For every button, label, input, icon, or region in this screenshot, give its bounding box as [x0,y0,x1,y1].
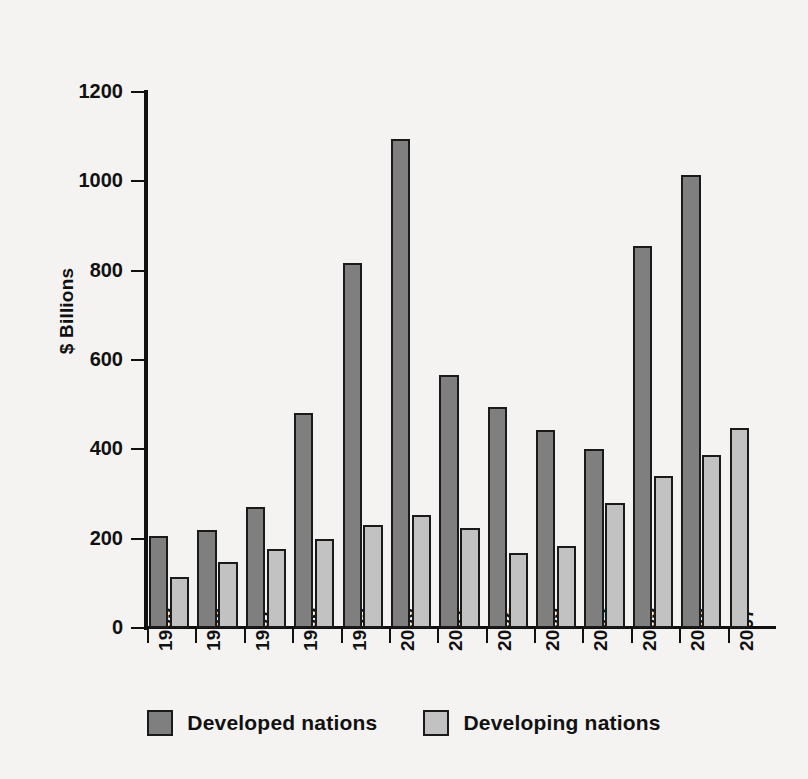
y-tick [131,627,145,629]
bar-developing-1997 [267,549,286,628]
y-tick-label: 600 [19,349,123,369]
bar-developed-2004 [584,449,603,628]
bar-developed-2002 [488,407,507,628]
x-tick [679,628,681,643]
bar-developed-1996 [197,530,216,628]
bar-developing-2004 [605,503,624,628]
legend-label: Developed nations [187,711,377,735]
y-tick-label: 400 [19,438,123,458]
bar-developed-2003 [536,430,555,628]
bar-developing-2007 [730,428,749,628]
y-tick-label: 1000 [19,170,123,190]
bar-developed-1999 [343,263,362,628]
x-tick [582,628,584,643]
y-tick [131,448,145,450]
y-tick [131,538,145,540]
y-tick [131,91,145,93]
legend-label: Developing nations [463,711,660,735]
y-tick-label: 200 [19,528,123,548]
y-tick-label: 800 [19,260,123,280]
bar-developed-1998 [294,413,313,628]
legend-entry-developing: Developing nations [423,710,660,736]
x-tick [195,628,197,643]
bar-developing-2005 [654,476,673,628]
x-tick [437,628,439,643]
y-tick [131,359,145,361]
x-tick [534,628,536,643]
x-tick [244,628,246,643]
y-tick-label: 0 [19,617,123,637]
y-tick [131,270,145,272]
bar-developed-2005 [633,246,652,628]
bar-developed-2006 [681,175,700,628]
legend-entry-developed: Developed nations [147,710,377,736]
bar-developing-2006 [702,455,721,628]
bar-developed-1995 [149,536,168,628]
x-tick [341,628,343,643]
bar-developing-1995 [170,577,189,628]
bar-developing-2001 [460,528,479,629]
bar-chart: $ Billions 120010008006004002000 1995199… [0,0,808,779]
bar-developing-2003 [557,546,576,628]
x-tick [728,628,730,643]
legend-swatch-icon [147,710,173,736]
bar-developing-2000 [412,515,431,628]
y-tick-label: 1200 [19,81,123,101]
x-tick [292,628,294,643]
bar-developing-2002 [509,553,528,628]
bar-developing-1998 [315,539,334,628]
chart-legend: Developed nationsDeveloping nations [0,710,808,736]
x-tick [147,628,149,643]
x-tick [389,628,391,643]
bar-developing-1999 [363,525,382,628]
bar-developed-2000 [391,139,410,628]
bar-developed-2001 [439,375,458,628]
y-tick [131,180,145,182]
x-tick [631,628,633,643]
plot-area [147,92,776,628]
legend-swatch-icon [423,710,449,736]
bar-developed-1997 [246,507,265,628]
bar-developing-1996 [218,562,237,628]
x-tick [486,628,488,643]
